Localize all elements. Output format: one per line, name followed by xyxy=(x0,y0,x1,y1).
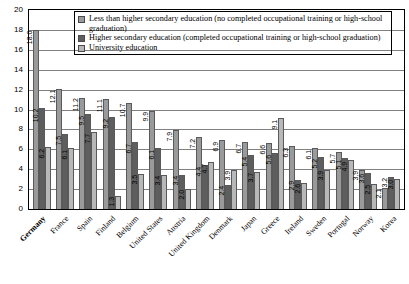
bar-value-label: 6.1 xyxy=(148,149,155,159)
bar-value-label: 9.9 xyxy=(142,112,149,122)
bar-value-label: 3.4 xyxy=(171,176,178,186)
bar-value-label: 11.2 xyxy=(72,99,79,112)
bar: 3.9 xyxy=(324,170,330,209)
bar-value-label: 4.7 xyxy=(200,163,207,173)
bar-value-label: 6.3 xyxy=(282,147,289,157)
bar-value-label: 5.6 xyxy=(264,154,271,164)
bar: 3.7 xyxy=(254,172,260,209)
legend-item-1: Higher secondary education (completed oc… xyxy=(78,33,388,43)
bar-value-label: 3.5 xyxy=(130,175,137,185)
bar-value-label: 2.0 xyxy=(177,190,184,200)
bar-value-label: 5.4 xyxy=(241,156,248,166)
bar-value-label: 2.4 xyxy=(218,186,225,196)
bar-value-label: 3.7 xyxy=(247,173,254,183)
bar-value-label: 6.7 xyxy=(124,143,131,153)
bar-value-label: 3.9 xyxy=(224,171,231,181)
y-axis-tick: 0 xyxy=(19,205,23,213)
bar: 3.4 xyxy=(161,175,167,209)
y-axis-tick: 12 xyxy=(14,86,23,94)
bar-value-label: 3.6 xyxy=(358,174,365,184)
bar-value-label: 7.7 xyxy=(84,133,91,143)
bar-value-label: 3.9 xyxy=(317,171,324,181)
bar-value-label: 9.2 xyxy=(101,118,108,128)
bar: 9.1 xyxy=(278,118,284,209)
legend-swatch-icon xyxy=(78,45,85,52)
bar-value-label: 6.7 xyxy=(235,143,242,153)
bar-value-label: 2.1 xyxy=(375,189,382,199)
bar: 3.9 xyxy=(231,170,237,209)
bar-value-label: 7.2 xyxy=(188,138,195,148)
y-axis-tick: 10 xyxy=(14,106,23,114)
bar-value-label: 11.1 xyxy=(95,100,102,113)
bar-value-label: 1.3 xyxy=(107,197,114,207)
bar-value-label: 2.6 xyxy=(294,184,301,194)
y-axis-tick: 18 xyxy=(14,26,23,34)
bar-value-label: 3.4 xyxy=(154,176,161,186)
bar-value-label: 9.1 xyxy=(270,119,277,129)
legend-label: University education xyxy=(89,43,388,53)
bar: 2.0 xyxy=(185,189,191,209)
legend-label: Higher secondary education (completed oc… xyxy=(89,33,388,43)
y-axis: 20181614121086420 xyxy=(0,9,26,210)
bar-value-label: 2.5 xyxy=(364,185,371,195)
bar-value-label: 5.2 xyxy=(311,158,318,168)
bar-value-label: 3.0 xyxy=(387,180,394,190)
legend-item-2: University education xyxy=(78,43,388,53)
y-axis-tick: 4 xyxy=(19,165,23,173)
bar: 6.2 xyxy=(45,147,51,209)
bar-value-label: 10.7 xyxy=(118,104,125,118)
legend-swatch-icon xyxy=(78,16,85,23)
y-axis-tick: 14 xyxy=(14,66,23,74)
bar-value-label: 6.2 xyxy=(37,148,44,158)
y-axis-tick: 2 xyxy=(19,185,23,193)
y-axis-tick: 16 xyxy=(14,46,23,54)
bar: 4.9 xyxy=(348,160,354,209)
bar: 2.6 xyxy=(301,183,307,209)
bar-value-label: 7.5 xyxy=(54,135,61,145)
bar: 3.5 xyxy=(138,174,144,209)
legend-swatch-icon xyxy=(78,35,85,42)
legend-label: Less than higher secondary education (no… xyxy=(89,14,388,33)
y-axis-tick: 8 xyxy=(19,125,23,133)
bar: 1.3 xyxy=(115,196,121,209)
bar-group: 18.010.26.2 xyxy=(30,10,53,209)
x-axis-labels: GermanyFranceSpainFinlandBelgiumUnited S… xyxy=(28,212,405,282)
bar-value-label: 12.1 xyxy=(48,90,55,104)
bar: 6.1 xyxy=(68,148,74,209)
legend-item-0: Less than higher secondary education (no… xyxy=(78,14,388,33)
legend: Less than higher secondary education (no… xyxy=(74,11,392,55)
bar-value-label: 9.5 xyxy=(78,115,85,125)
bar: 7.7 xyxy=(91,132,97,209)
bar-value-label: 18.0 xyxy=(25,31,32,45)
y-axis-tick: 20 xyxy=(14,6,23,14)
bar-value-label: 7.9 xyxy=(165,131,172,141)
bar-value-label: 6.9 xyxy=(212,141,219,151)
bar-value-label: 4.9 xyxy=(340,161,347,171)
bar-value-label: 6.1 xyxy=(60,149,67,159)
bar: 4.7 xyxy=(208,162,214,209)
bar-chart: 20181614121086420 18.010.26.212.17.56.11… xyxy=(0,0,409,284)
bar-value-label: 6.6 xyxy=(258,144,265,154)
bar: 3.0 xyxy=(394,179,400,209)
bar-value-label: 10.2 xyxy=(31,109,38,123)
y-axis-tick: 6 xyxy=(19,145,23,153)
